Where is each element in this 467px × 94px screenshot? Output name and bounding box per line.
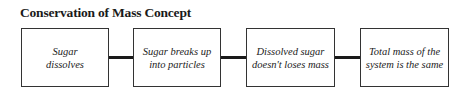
- step-box-sugar-dissolves: Sugar dissolves: [21, 28, 109, 87]
- step-box-sugar-breaks-up: Sugar breaks up into particles: [133, 28, 221, 87]
- step-box-dissolved-sugar: Dissolved sugar doesn't loses mass: [246, 28, 335, 87]
- connector-line: [335, 56, 360, 59]
- step-label: Total mass of the system is the same: [366, 45, 443, 71]
- step-label: Sugar dissolves: [46, 45, 84, 71]
- step-label: Sugar breaks up into particles: [143, 45, 211, 71]
- connector-line: [109, 56, 133, 59]
- step-box-total-mass: Total mass of the system is the same: [360, 28, 449, 87]
- connector-line: [221, 56, 246, 59]
- step-label: Dissolved sugar doesn't loses mass: [252, 45, 329, 71]
- diagram-title: Conservation of Mass Concept: [20, 5, 191, 21]
